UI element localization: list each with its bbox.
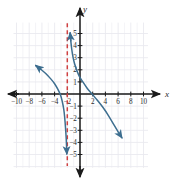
right-branch-start-arrow [70,33,71,41]
x-tick-label: −10 [11,98,23,106]
y-tick-label: −5 [69,151,77,159]
x-tick-label: −6 [38,98,46,106]
y-tick-label: −1 [69,103,77,111]
y-axis-label: y [82,4,87,14]
y-tick-label: 4 [73,42,77,50]
y-tick-label: 1 [73,79,77,87]
x-tick-label: 10 [140,98,148,106]
left-branch-curve [36,66,67,154]
x-tick-label: 6 [116,98,120,106]
coordinate-plane-figure: −10−8−6−4−224681054321−1−2−3−4−5 x y [0,0,177,180]
x-tick-label: 4 [104,98,108,106]
y-tick-label: 5 [73,30,77,38]
x-axis-label: x [164,89,169,99]
y-tick-label: −4 [69,139,77,147]
y-tick-label: −3 [69,127,77,135]
y-tick-label: −2 [69,115,77,123]
left-branch-start-arrow [36,66,41,70]
x-tick-label: 2 [91,98,95,106]
graph-canvas: −10−8−6−4−224681054321−1−2−3−4−5 x y [0,0,177,180]
right-branch-curve [70,33,122,138]
x-tick-label: 8 [129,98,133,106]
x-tick-label: −4 [51,98,59,106]
x-tick-label: −8 [25,98,33,106]
